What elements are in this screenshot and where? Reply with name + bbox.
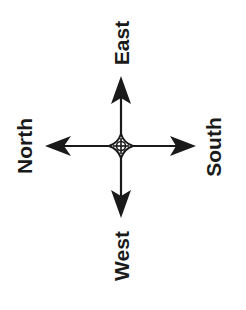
label-west: West: [111, 231, 132, 281]
label-north: North: [14, 118, 35, 174]
compass-diagram: East West North South: [0, 0, 246, 310]
label-south: South: [203, 117, 224, 176]
label-east: East: [111, 21, 132, 65]
compass-center-icon: [109, 134, 133, 158]
